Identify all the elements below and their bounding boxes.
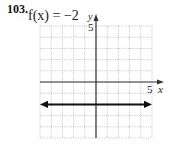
y-tick-label: 5: [88, 21, 94, 33]
line-right-arrow-icon: [144, 101, 152, 108]
line-left-arrow-icon: [40, 101, 48, 108]
x-axis-label: x: [157, 83, 163, 95]
x-tick-label: 5: [147, 83, 153, 95]
graph: y 5 5 x: [0, 0, 171, 148]
y-axis-arrow-icon: [94, 14, 99, 21]
